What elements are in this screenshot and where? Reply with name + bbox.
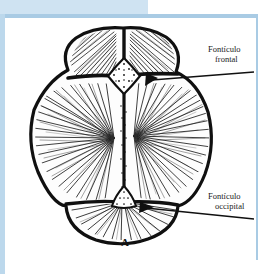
label-occipital-line2: occipital <box>208 202 244 212</box>
label-frontal-line2: frontal <box>208 55 241 65</box>
figure-page: Fontículo frontal Fontículo occipital A <box>0 0 270 274</box>
page-accent-band-top <box>0 0 148 14</box>
page-accent-band-left <box>0 14 5 262</box>
page-accent-rule-right <box>256 14 258 260</box>
label-fonticulo-frontal: Fontículo frontal <box>208 45 241 64</box>
figure-caption: A <box>0 236 250 248</box>
label-fonticulo-occipital: Fontículo occipital <box>208 192 244 211</box>
